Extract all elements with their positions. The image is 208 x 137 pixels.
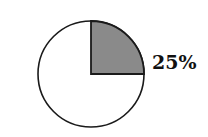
slice-percent-label: 25% [152,51,197,73]
pie-chart: 25% [0,0,208,137]
pie-shaded-slice [91,21,144,74]
